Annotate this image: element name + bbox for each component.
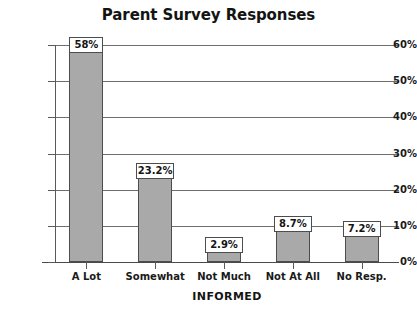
y-tick-mark — [48, 226, 55, 227]
gridline — [55, 190, 399, 191]
bar — [69, 52, 103, 262]
y-tick-mark — [48, 190, 55, 191]
y-tick-label: 40% — [373, 111, 417, 122]
x-tick-label: A Lot — [72, 271, 101, 282]
x-tick-label: Somewhat — [126, 271, 185, 282]
y-tick-mark — [48, 81, 55, 82]
x-tick-label: No Resp. — [337, 271, 387, 282]
gridline — [55, 154, 399, 155]
chart-title: Parent Survey Responses — [0, 6, 417, 24]
bar-chart: Parent Survey Responses 58%23.2%2.9%8.7%… — [0, 0, 417, 319]
y-tick-label: 50% — [373, 75, 417, 86]
x-tick-label: Not Much — [197, 271, 251, 282]
bar-value-label: 58% — [69, 37, 103, 53]
x-axis-line — [42, 262, 399, 263]
plot-area: 58%23.2%2.9%8.7%7.2% — [55, 45, 399, 262]
y-tick-label: 30% — [373, 148, 417, 159]
y-axis-line — [55, 45, 56, 263]
gridline — [55, 117, 399, 118]
gridline — [55, 45, 399, 46]
x-tick-label: Not At All — [266, 271, 320, 282]
x-tick-mark — [155, 262, 156, 269]
y-tick-mark — [48, 117, 55, 118]
y-tick-label: 20% — [373, 184, 417, 195]
bar — [138, 178, 172, 262]
y-tick-mark — [48, 154, 55, 155]
bar-value-label: 8.7% — [274, 216, 312, 232]
y-tick-mark — [48, 262, 55, 263]
x-tick-mark — [293, 262, 294, 269]
bar — [276, 231, 310, 262]
x-tick-mark — [86, 262, 87, 269]
y-tick-label: 60% — [373, 39, 417, 50]
x-axis-title: INFORMED — [55, 290, 399, 303]
bar — [207, 252, 241, 262]
x-tick-mark — [362, 262, 363, 269]
y-tick-mark — [48, 45, 55, 46]
x-tick-mark — [224, 262, 225, 269]
bar-value-label: 23.2% — [136, 163, 174, 179]
y-tick-label: 0% — [373, 256, 417, 267]
gridline — [55, 81, 399, 82]
y-tick-label: 10% — [373, 220, 417, 231]
bar-value-label: 2.9% — [205, 237, 243, 253]
